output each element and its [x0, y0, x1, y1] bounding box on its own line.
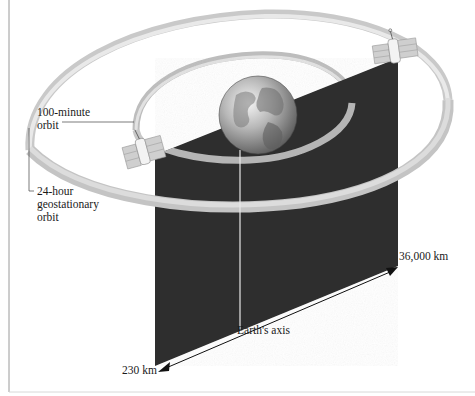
label-230-km: 230 km	[122, 364, 157, 377]
label-geostationary-orbit: 24-hour geostationary orbit	[37, 185, 99, 224]
earth-globe-icon	[219, 76, 297, 154]
label-36000-km: 36,000 km	[399, 250, 448, 263]
arrowhead-right-icon	[386, 267, 398, 276]
label-100-minute-orbit: 100-minute orbit	[37, 106, 90, 132]
label-earths-axis: Earth's axis	[237, 324, 290, 337]
orbit-diagram: 100-minute orbit 24-hour geostationary o…	[0, 0, 475, 396]
